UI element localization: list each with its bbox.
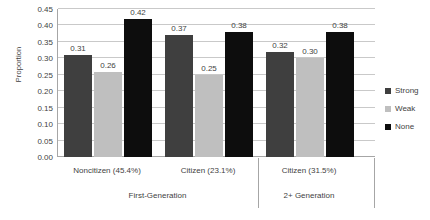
y-tick-label: 0.45 — [37, 5, 53, 14]
bar-value-label: 0.38 — [231, 22, 247, 30]
category-axis-right-edge — [374, 158, 375, 183]
category-label: Noncitizen (45.4%) — [59, 158, 155, 183]
category-label: Citizen (23.1%) — [160, 158, 256, 183]
y-tick-label: 0.05 — [37, 136, 53, 145]
supergroup-label: 2+ Generation — [261, 183, 357, 208]
bar-slot: 0.30 — [296, 9, 324, 157]
bar-value-label: 0.30 — [302, 48, 318, 56]
legend-label: Weak — [395, 104, 415, 113]
y-tick-label: 0.25 — [37, 70, 53, 79]
y-tick-label: 0.30 — [37, 54, 53, 63]
category-label: Citizen (31.5%) — [261, 158, 357, 183]
bar-value-label: 0.42 — [130, 9, 146, 17]
legend-item[interactable]: Strong — [385, 86, 419, 95]
legend-label: Strong — [395, 86, 419, 95]
y-tick-label: 0.20 — [37, 87, 53, 96]
bar-value-label: 0.37 — [171, 25, 187, 33]
legend-label: None — [395, 122, 414, 131]
y-axis-title: Proportion — [14, 25, 23, 105]
bar[interactable]: 0.42 — [124, 19, 152, 157]
legend-swatch-icon — [385, 124, 391, 130]
y-tick-label: 0.00 — [37, 153, 53, 162]
y-tick-label: 0.10 — [37, 120, 53, 129]
bar-slot: 0.38 — [326, 9, 354, 157]
bar-group: 0.370.250.38 — [161, 9, 257, 157]
bar-slot: 0.42 — [124, 9, 152, 157]
legend-item[interactable]: Weak — [385, 104, 419, 113]
legend-swatch-icon — [385, 106, 391, 112]
bar[interactable]: 0.31 — [64, 55, 92, 157]
bar[interactable]: 0.38 — [225, 32, 253, 157]
plot-area: 0.450.400.350.300.250.200.150.100.050.00… — [57, 9, 375, 157]
bars-layer: 0.310.260.420.370.250.380.320.300.38 — [58, 9, 375, 157]
bar-slot: 0.31 — [64, 9, 92, 157]
bar[interactable]: 0.26 — [94, 72, 122, 158]
supergroup-label: First-Generation — [59, 183, 256, 208]
bar-slot: 0.25 — [195, 9, 223, 157]
bar[interactable]: 0.30 — [296, 58, 324, 157]
y-tick-label: 0.35 — [37, 37, 53, 46]
bar-chart: Proportion 0.450.400.350.300.250.200.150… — [0, 0, 430, 220]
bar[interactable]: 0.37 — [165, 35, 193, 157]
category-labels-row: Noncitizen (45.4%)Citizen (23.1%)Citizen… — [57, 158, 375, 183]
bar-group: 0.310.260.42 — [60, 9, 156, 157]
bar-value-label: 0.31 — [70, 45, 86, 53]
bar-slot: 0.26 — [94, 9, 122, 157]
bar[interactable]: 0.32 — [266, 52, 294, 157]
bar[interactable]: 0.25 — [195, 75, 223, 157]
supergroup-labels-row: First-Generation2+ Generation — [57, 183, 375, 208]
bar-value-label: 0.25 — [201, 65, 217, 73]
group-separator — [258, 158, 259, 183]
bar-slot: 0.37 — [165, 9, 193, 157]
bar-value-label: 0.38 — [332, 22, 348, 30]
bar-slot: 0.32 — [266, 9, 294, 157]
category-axis: Noncitizen (45.4%)Citizen (23.1%)Citizen… — [57, 158, 375, 208]
legend: StrongWeakNone — [385, 86, 419, 131]
bar-group: 0.320.300.38 — [262, 9, 358, 157]
legend-swatch-icon — [385, 88, 391, 94]
bar-value-label: 0.32 — [272, 42, 288, 50]
category-axis-right-edge — [374, 183, 375, 208]
bar-value-label: 0.26 — [100, 62, 116, 70]
bar[interactable]: 0.38 — [326, 32, 354, 157]
bar-slot: 0.38 — [225, 9, 253, 157]
group-separator — [258, 183, 259, 208]
y-tick-label: 0.15 — [37, 103, 53, 112]
legend-item[interactable]: None — [385, 122, 419, 131]
y-tick-label: 0.40 — [37, 21, 53, 30]
